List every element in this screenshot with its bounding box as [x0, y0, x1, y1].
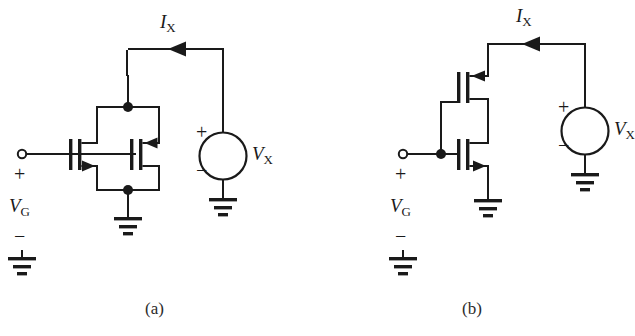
- gate-terminal-open-circle[interactable]: [18, 150, 26, 158]
- vg-plus-sign-b: +: [395, 164, 406, 184]
- center-ground-bar-3: [123, 232, 133, 235]
- vx-label-b: VX: [614, 119, 635, 138]
- m2-drain-arrow: [145, 138, 158, 149]
- vg-ground-bar-2: [13, 265, 31, 268]
- vx-label-a: VX: [252, 144, 273, 163]
- vg-ground-bar-3: [17, 272, 27, 275]
- vg-label-a: VG: [9, 196, 30, 215]
- ix-label-a-sub: X: [166, 20, 175, 35]
- vg-ground-bar-1-b: [389, 257, 417, 260]
- m2-channel-plate: [139, 139, 142, 170]
- vx-label-b-sub: X: [626, 127, 635, 142]
- center-ground-bar-2: [119, 225, 137, 228]
- ix-current-arrow: [168, 42, 186, 57]
- vx-ground-bar-2: [214, 206, 232, 209]
- vx-label-b-var: V: [614, 118, 626, 139]
- caption-b: (b): [462, 300, 482, 317]
- subfigure-b: [389, 37, 609, 276]
- vg-label-a-var: V: [9, 195, 21, 216]
- vg-plus-sign-a: +: [14, 164, 25, 184]
- m2b-source-arrow: [473, 161, 486, 172]
- b-ground-bar-2: [479, 207, 497, 210]
- b-ground-bar-3: [483, 214, 493, 217]
- b-ground-bar-1: [474, 199, 502, 202]
- subfigure-a: [8, 42, 247, 276]
- m1-gate-plate: [69, 139, 72, 170]
- m2b-channel-plate: [466, 139, 469, 170]
- vx-minus-sign-a: −: [196, 160, 207, 180]
- vx-label-a-sub: X: [264, 152, 273, 167]
- vx-ground-bar-2-b: [576, 181, 594, 184]
- vg-minus-sign-a: −: [14, 226, 25, 246]
- vx-ground-bar-1-b: [571, 173, 599, 176]
- m2-gate-plate: [130, 139, 133, 170]
- vx-ground-bar-1: [209, 198, 237, 201]
- vg-minus-sign-b: −: [395, 226, 406, 246]
- vx-plus-sign-a: +: [196, 122, 207, 142]
- m1b-gate-plate: [457, 72, 460, 103]
- vg-ground-bar-1: [8, 257, 36, 260]
- m1b-channel-plate: [466, 72, 469, 103]
- vg-label-b-var: V: [390, 195, 402, 216]
- vx-minus-sign-b: −: [558, 135, 569, 155]
- m1b-drain-arrow: [472, 71, 486, 82]
- vg-label-b: VG: [390, 196, 411, 215]
- center-ground-bar-1: [114, 217, 142, 220]
- vg-ground-bar-2-b: [394, 265, 412, 268]
- vx-plus-sign-b: +: [558, 97, 569, 117]
- gate-terminal-open-circle-b[interactable]: [399, 150, 407, 158]
- vg-label-b-sub: G: [402, 204, 411, 219]
- m1-channel-plate: [78, 139, 81, 170]
- vg-label-a-sub: G: [21, 204, 30, 219]
- vg-ground-bar-3-b: [398, 272, 408, 275]
- ix-label-b-sub: X: [522, 14, 531, 29]
- vx-ground-bar-3-b: [580, 188, 590, 191]
- vx-label-a-var: V: [252, 143, 264, 164]
- ix-label-b: IX: [516, 6, 532, 25]
- caption-a: (a): [145, 300, 164, 317]
- m1-source-arrow: [82, 161, 95, 172]
- ix-label-a: IX: [160, 12, 176, 31]
- ix-current-arrow-b: [522, 37, 540, 52]
- vx-ground-bar-3: [218, 213, 228, 216]
